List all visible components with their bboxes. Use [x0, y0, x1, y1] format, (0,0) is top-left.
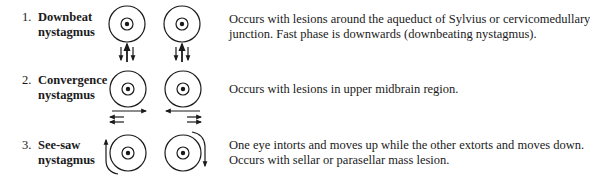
eyes-curved-arrows-icon	[106, 132, 205, 174]
eyes-horizontal-arrows-icon	[110, 71, 201, 122]
eyes-vertical-arrows-icon	[109, 6, 200, 62]
